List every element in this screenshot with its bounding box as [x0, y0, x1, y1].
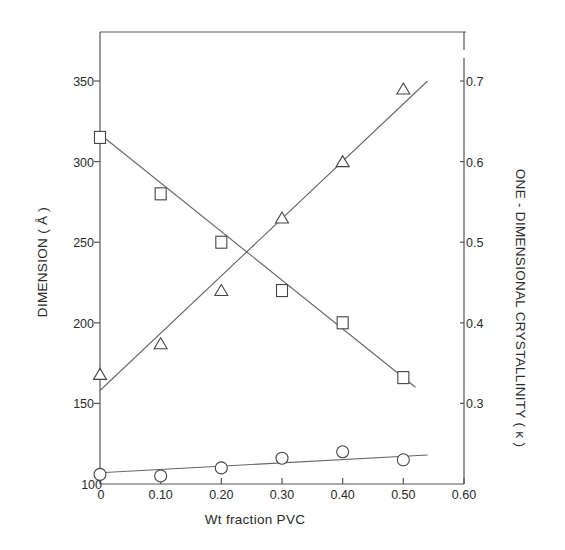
circle-marker — [337, 446, 349, 458]
x-axis-title: Wt fraction PVC — [205, 512, 306, 527]
y-tick-label: 150 — [73, 397, 94, 411]
y2-tick-label: 0.5 — [466, 236, 483, 250]
square-marker — [216, 236, 227, 248]
squares-fit-line — [100, 134, 415, 387]
triangle-marker — [215, 285, 228, 296]
x-tick-label: 0.10 — [148, 488, 172, 502]
circle-marker — [215, 462, 227, 474]
y-axis-right-title: ONE - DIMENSIONAL CRYSTALLINITY ( κ ) — [513, 169, 528, 447]
x-tick-label: 0.40 — [330, 488, 354, 502]
y2-tick-label: 0.4 — [466, 317, 483, 331]
circle-marker — [94, 468, 106, 480]
square-marker — [277, 285, 288, 297]
plot-frame — [100, 32, 466, 484]
triangle-marker — [154, 338, 167, 349]
circle-marker — [276, 452, 288, 464]
square-marker — [155, 188, 166, 200]
square-marker — [337, 317, 348, 329]
y-tick-label: 200 — [73, 317, 94, 331]
x-tick-label: 0.30 — [270, 488, 294, 502]
chart: 00.100.200.300.400.500.60 10015020025030… — [0, 0, 565, 550]
y2-tick-label: 0.6 — [466, 156, 483, 170]
circle-marker — [155, 470, 167, 482]
x-tick-label: 0.60 — [452, 488, 476, 502]
y2-tick-label: 0.7 — [466, 75, 483, 89]
circles-fit-line — [100, 455, 428, 473]
triangle-marker — [94, 368, 107, 379]
y-tick-label: 350 — [73, 75, 94, 89]
x-axis-ticks: 00.100.200.300.400.500.60 — [98, 478, 477, 502]
x-tick-label: 0.20 — [209, 488, 233, 502]
triangles-fit-line — [100, 81, 428, 391]
circle-marker — [397, 454, 409, 466]
x-tick-label: 0.50 — [391, 488, 415, 502]
y-axis-left-title: DIMENSION ( Å ) — [35, 207, 50, 317]
fit-lines — [100, 81, 428, 473]
triangle-marker — [397, 83, 410, 94]
y-tick-label: 250 — [73, 236, 94, 250]
square-marker — [398, 372, 409, 384]
square-marker — [95, 131, 106, 143]
y2-tick-label: 0.3 — [466, 397, 483, 411]
y-tick-label: 300 — [73, 156, 94, 170]
